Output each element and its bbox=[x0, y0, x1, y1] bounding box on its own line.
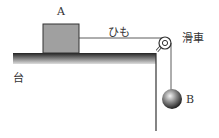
table-top bbox=[13, 53, 156, 64]
label-pulley: 滑車 bbox=[182, 31, 204, 45]
label-string: ひも bbox=[108, 26, 130, 39]
label-b: B bbox=[186, 93, 194, 106]
label-table: 台 bbox=[13, 71, 24, 85]
pulley-axle bbox=[162, 40, 167, 45]
ball-b bbox=[162, 89, 182, 109]
label-a: A bbox=[56, 5, 66, 18]
diagram: A ひも 滑車 台 B bbox=[0, 0, 219, 138]
block-a bbox=[43, 24, 79, 53]
